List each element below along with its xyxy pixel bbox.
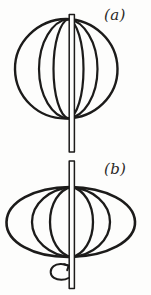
diagram-canvas	[0, 0, 151, 295]
panel-label-a: (a)	[104, 6, 126, 24]
panel-label-b: (b)	[104, 160, 126, 178]
rotation-arrow-arc	[51, 264, 69, 280]
figure-container: (a) (b)	[0, 0, 151, 295]
sphere-outline	[15, 19, 118, 119]
panel-a-sphere	[15, 19, 118, 119]
rotation-arrow-icon	[51, 264, 69, 280]
rotation-axis	[69, 15, 74, 289]
rotation-axis-rod-lower	[69, 161, 74, 289]
rotation-axis-rod-upper	[69, 15, 74, 153]
rotation-arrow-head	[64, 264, 69, 270]
